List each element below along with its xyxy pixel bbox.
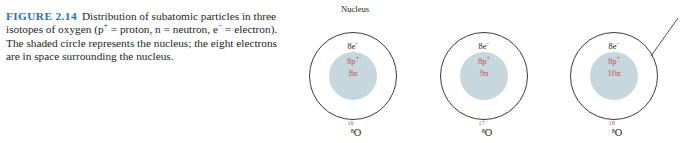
proton-count-text: 8p	[478, 56, 487, 66]
proton-count-line: 8p+	[329, 56, 377, 68]
neutron-count-line: 9n	[460, 68, 508, 80]
nucleus-callout-label: Nucleus	[341, 4, 369, 14]
neutron-count-line: 8n	[329, 68, 377, 80]
proton-charge-superscript: +	[617, 55, 620, 61]
atom-diagram-oxygen-18: 8e− 8p+ 10n 188O	[561, 32, 669, 140]
isotope-number-stack: 188	[606, 124, 615, 136]
nucleus-composition-label: 8p+ 9n	[460, 56, 508, 79]
isotope-number-stack: 168	[345, 124, 354, 136]
isotope-number-stack: 178	[476, 124, 485, 136]
electron-charge-superscript: −	[355, 40, 358, 46]
electron-count-label: 8e−	[300, 42, 406, 51]
electron-count-label: 8e−	[561, 42, 667, 51]
atomic-number: 8	[612, 128, 615, 134]
mass-number: 16	[348, 120, 354, 126]
caption-text-part-2: = proton, n = neutron, e	[108, 23, 218, 35]
atomic-number: 8	[351, 128, 354, 134]
figure-number-label: FIGURE 2.14	[6, 10, 77, 22]
electron-charge-superscript: −	[616, 40, 619, 46]
atomic-number: 8	[482, 128, 485, 134]
proton-count-line: 8p+	[590, 56, 638, 68]
isotope-symbol-label: 178O	[431, 124, 537, 138]
mass-number: 17	[479, 120, 485, 126]
nucleus-composition-label: 8p+ 10n	[590, 56, 638, 79]
proton-count-text: 8p	[347, 56, 356, 66]
element-symbol: O	[485, 127, 493, 138]
proton-count-text: 8p	[608, 56, 617, 66]
neutron-count-line: 10n	[590, 68, 638, 80]
element-symbol: O	[615, 127, 623, 138]
proton-charge-superscript: +	[487, 55, 490, 61]
element-symbol: O	[354, 127, 362, 138]
electron-charge-superscript: −	[486, 40, 489, 46]
nucleus-composition-label: 8p+ 8n	[329, 56, 377, 79]
atom-diagram-oxygen-17: 8e− 8p+ 9n 178O	[431, 32, 539, 140]
figure-caption: FIGURE 2.14Distribution of subatomic par…	[6, 10, 286, 64]
proton-charge-superscript: +	[356, 55, 359, 61]
proton-count-line: 8p+	[460, 56, 508, 68]
isotope-diagram-group: 8e− 8p+ 8n 168O 8e− 8p+ 9n 178O 8e− 8p+ …	[296, 0, 671, 143]
isotope-symbol-label: 168O	[300, 124, 406, 138]
electron-count-label: 8e−	[431, 42, 537, 51]
isotope-symbol-label: 188O	[561, 124, 667, 138]
atom-diagram-oxygen-16: 8e− 8p+ 8n 168O	[300, 32, 408, 140]
mass-number: 18	[609, 120, 615, 126]
